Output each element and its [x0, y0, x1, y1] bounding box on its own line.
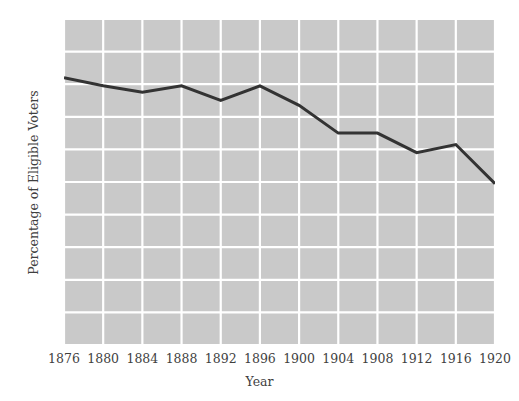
x-tick-label: 1892 [205, 352, 237, 365]
x-tick-label: 1876 [48, 352, 80, 365]
x-tick-label: 1896 [244, 352, 276, 365]
x-tick-label: 1916 [440, 352, 472, 365]
chart-figure: 0102030405060708090100 18761880188418881… [0, 0, 519, 401]
x-tick-label: 1920 [479, 352, 511, 365]
x-tick-label: 1888 [166, 352, 198, 365]
x-tick-label: 1908 [362, 352, 394, 365]
y-axis-title: Percentage of Eligible Voters [26, 68, 41, 298]
x-tick-label: 1900 [283, 352, 315, 365]
x-axis-tick-labels: 1876188018841888189218961900190419081912… [0, 0, 519, 401]
x-tick-label: 1880 [87, 352, 119, 365]
x-axis-title: Year [0, 374, 519, 389]
x-tick-label: 1904 [322, 352, 354, 365]
x-tick-label: 1912 [401, 352, 433, 365]
x-tick-label: 1884 [126, 352, 158, 365]
